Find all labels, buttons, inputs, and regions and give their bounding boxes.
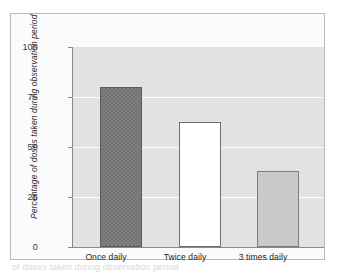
figure: Percentage of doses taken during observa… (0, 0, 340, 277)
y-tick-label-75: 75 (28, 93, 38, 102)
y-axis-title: Percentage of doses taken during observa… (29, 29, 39, 219)
y-tick-mark-0 (68, 247, 73, 248)
y-tick-label-0: 0 (33, 243, 38, 252)
x-axis-line (72, 247, 324, 248)
bar-3-times-daily (257, 171, 299, 247)
y-tick-label-100: 100 (22, 43, 38, 52)
bar-twice-daily (179, 122, 221, 247)
caption-strip: of doses taken during observation period (12, 264, 328, 277)
figure-frame: Percentage of doses taken during observa… (10, 13, 325, 260)
y-tick-label-50: 50 (28, 143, 38, 152)
x-tick-label-3-times-daily: 3 times daily (217, 252, 309, 262)
plot-area (73, 47, 324, 247)
y-tick-label-25: 25 (28, 193, 38, 202)
bar-once-daily (100, 87, 142, 247)
caption-text: of doses taken during observation period (12, 264, 328, 272)
